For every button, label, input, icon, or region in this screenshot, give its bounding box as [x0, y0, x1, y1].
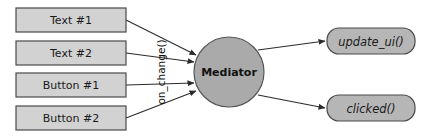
mediator-label: Mediator [201, 66, 257, 79]
edge-mediator-to-update-ui [258, 41, 325, 50]
source-node-button2[interactable]: Button #2 [16, 106, 126, 130]
edge-label-on-change: on_change() [155, 39, 168, 104]
edge-mediator-to-clicked [258, 95, 325, 108]
source-label-text2: Text #2 [49, 47, 92, 60]
source-node-text2[interactable]: Text #2 [16, 41, 126, 65]
source-node-button1[interactable]: Button #1 [16, 73, 126, 97]
source-node-text1[interactable]: Text #1 [16, 8, 126, 32]
diagram-svg: Text #1 Text #2 Button #1 Button #2 on_c… [0, 0, 422, 138]
target-node-update-ui[interactable]: update_ui() [327, 28, 415, 54]
source-label-text1: Text #1 [49, 14, 92, 27]
target-node-clicked[interactable]: clicked() [327, 95, 415, 121]
edge-label-on-change-text: on_change() [155, 39, 168, 104]
diagram-canvas: Text #1 Text #2 Button #1 Button #2 on_c… [0, 0, 422, 138]
source-label-button1: Button #1 [43, 79, 100, 92]
source-label-button2: Button #2 [43, 112, 100, 125]
target-label-clicked: clicked() [346, 102, 395, 116]
edges-outgoing [258, 41, 325, 108]
mediator-node[interactable]: Mediator [194, 37, 264, 107]
target-label-update-ui: update_ui() [338, 35, 404, 49]
